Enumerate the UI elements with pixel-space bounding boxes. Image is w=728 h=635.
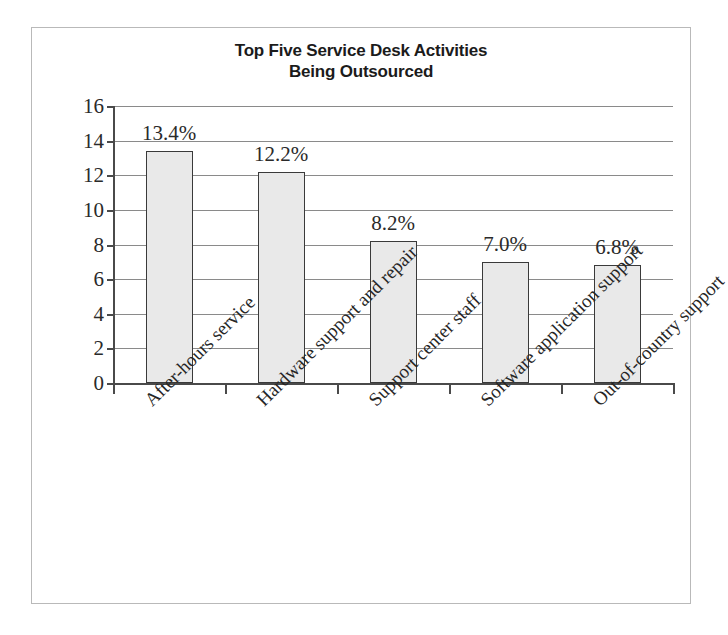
category-separator — [673, 383, 675, 394]
x-axis-category-label: After-hours service — [141, 292, 258, 409]
y-tick-label: 2 — [94, 338, 105, 359]
y-tick-label: 14 — [83, 130, 104, 151]
category-separator — [449, 383, 451, 394]
y-tick-label: 12 — [83, 165, 104, 186]
x-axis-category-label: Out-of-country support — [589, 271, 727, 409]
chart-title-line-2: Being Outsourced — [32, 61, 690, 82]
x-axis-category-label: Support center staff — [365, 290, 484, 409]
y-tick-label: 10 — [83, 199, 104, 220]
figure-frame: Top Five Service Desk Activities Being O… — [31, 27, 691, 604]
chart-title: Top Five Service Desk Activities Being O… — [32, 40, 690, 82]
category-separator — [561, 383, 563, 394]
y-tick-label: 4 — [94, 303, 105, 324]
x-axis-category-labels-group: After-hours serviceHardware support and … — [113, 106, 673, 383]
category-separator — [113, 383, 115, 394]
caption-remnant — [33, 621, 313, 631]
y-tick-label: 0 — [94, 373, 105, 394]
y-tick-label: 16 — [83, 96, 104, 117]
category-separator — [337, 383, 339, 394]
chart-title-line-1: Top Five Service Desk Activities — [32, 40, 690, 61]
category-separator — [225, 383, 227, 394]
y-tick-label: 6 — [94, 269, 105, 290]
y-tick-label: 8 — [94, 234, 105, 255]
